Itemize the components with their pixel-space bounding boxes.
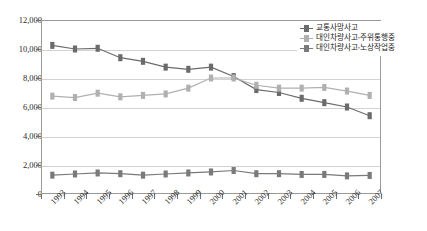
- gridline: [42, 79, 380, 80]
- legend-marker-icon: [300, 44, 313, 53]
- line-chart: 12,00010,0008,0006,0004,0002,0000 199319…: [0, 0, 427, 231]
- legend-marker-icon: [300, 24, 313, 33]
- gridline: [42, 137, 380, 138]
- legend-item: 교통사망사고: [300, 23, 395, 33]
- x-axis-tick-mark: [41, 194, 42, 199]
- legend-item-label: 대인차량사고-노상작업중: [316, 43, 395, 54]
- gridline: [42, 108, 380, 109]
- legend-item: 대인차량사고-주위통행중: [300, 33, 395, 43]
- legend-item: 대인차량사고-노상작업중: [300, 43, 395, 53]
- gridline: [42, 166, 380, 167]
- legend: 교통사망사고대인차량사고-주위통행중대인차량사고-노상작업중: [297, 21, 398, 56]
- legend-marker-icon: [300, 34, 313, 43]
